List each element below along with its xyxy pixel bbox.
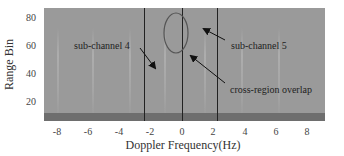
x-tick: -8 — [53, 126, 61, 137]
x-tick: -4 — [115, 126, 123, 137]
arrow-overlap — [191, 56, 225, 83]
annotation-subchannel-5: sub-channel 5 — [231, 40, 287, 51]
x-tick: 8 — [305, 126, 310, 137]
x-axis-label: Doppler Frequency(Hz) — [0, 138, 344, 153]
x-tick: 0 — [180, 126, 185, 137]
annotation-cross-region-overlap: cross-region overlap — [230, 84, 312, 95]
arrow-subchannel-4 — [140, 48, 155, 68]
x-tick: -2 — [146, 126, 154, 137]
y-tick: 40 — [26, 68, 36, 79]
y-tick: 80 — [26, 12, 36, 23]
overlap-ellipse — [164, 13, 188, 53]
annotation-overlay — [0, 0, 344, 156]
x-tick: -6 — [84, 126, 92, 137]
x-tick: 6 — [274, 126, 279, 137]
x-tick: 2 — [211, 126, 216, 137]
annotation-subchannel-4: sub-channel 4 — [74, 40, 130, 51]
y-tick: 20 — [26, 96, 36, 107]
y-axis-label: Range Bin — [2, 39, 17, 90]
y-tick: 60 — [26, 40, 36, 51]
x-tick: 4 — [243, 126, 248, 137]
arrow-subchannel-5 — [204, 29, 225, 40]
